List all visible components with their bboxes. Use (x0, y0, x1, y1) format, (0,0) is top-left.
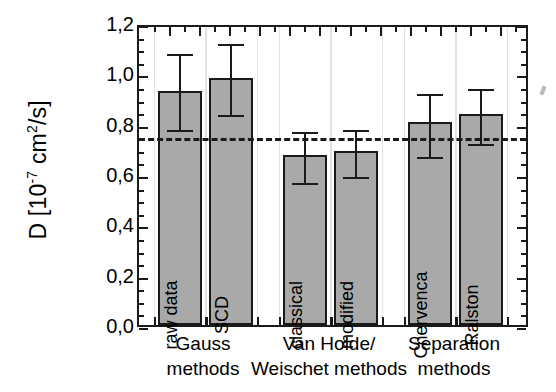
gridline (279, 27, 280, 325)
gridline (257, 27, 258, 325)
y-minor-tick (139, 315, 144, 317)
y-minor-tick-right (521, 265, 526, 267)
error-bar-stem (230, 45, 232, 117)
y-minor-tick-right (521, 215, 526, 217)
gridline (205, 27, 206, 325)
x-top-tick (319, 27, 321, 36)
y-tick-label: 0,4 (72, 215, 134, 235)
error-bar-cap-lower (292, 183, 318, 185)
y-major-tick-right (517, 278, 526, 280)
y-major-tick-right (517, 127, 526, 129)
y-axis-title-prefix: D [10 (25, 184, 51, 240)
gridline (154, 27, 155, 325)
y-major-tick-right (517, 177, 526, 179)
y-minor-tick-right (521, 315, 526, 317)
x-top-tick (410, 27, 412, 36)
x-top-tick (169, 27, 171, 36)
gridline (382, 27, 383, 325)
x-axis-category-labels: Gauss methodsVan Holde/ Weischet methods… (137, 331, 528, 391)
x-bottom-tick (455, 317, 457, 325)
x-bottom-tick (279, 317, 281, 325)
y-minor-tick-right (521, 202, 526, 204)
y-major-tick (139, 76, 148, 78)
x-bottom-tick (330, 317, 332, 325)
x-top-tick (365, 27, 367, 32)
x-top-tick (425, 27, 427, 32)
x-top-tick (440, 27, 442, 36)
y-minor-tick-right (521, 89, 526, 91)
x-top-tick (515, 27, 517, 32)
y-minor-tick-right (521, 39, 526, 41)
y-minor-tick (139, 240, 144, 242)
y-minor-tick-right (521, 102, 526, 104)
x-top-tick (274, 27, 276, 32)
y-major-tick (139, 278, 148, 280)
y-minor-tick (139, 152, 144, 154)
error-bar-cap-lower (468, 144, 494, 146)
x-top-tick (289, 27, 291, 36)
x-bottom-tick (154, 317, 156, 325)
y-axis-title-mid: cm (25, 133, 51, 171)
y-major-tick (139, 177, 148, 179)
y-tick-label: 0,6 (72, 165, 134, 185)
x-top-tick (214, 27, 216, 32)
y-major-tick-right (517, 328, 526, 330)
error-bar-stem (429, 95, 431, 158)
y-major-tick (139, 227, 148, 229)
error-bar-cap-lower (417, 157, 443, 159)
y-minor-tick (139, 215, 144, 217)
error-bar-stem (480, 90, 482, 145)
gridline (455, 27, 456, 325)
y-minor-tick (139, 253, 144, 255)
x-top-tick (154, 27, 156, 32)
gridline (206, 27, 207, 325)
y-minor-tick-right (521, 240, 526, 242)
plot-area: raw dataSCDclassicalmodifiedChervencaRal… (137, 25, 528, 327)
x-bottom-tick (404, 317, 406, 325)
y-major-tick-right (517, 76, 526, 78)
x-top-tick (304, 27, 306, 32)
gridline (331, 27, 332, 325)
gridline (404, 27, 405, 325)
scan-artifact-speck (539, 86, 546, 96)
y-tick-label: 1,2 (72, 14, 134, 34)
gridline (507, 27, 508, 325)
x-top-tick (380, 27, 382, 36)
diffusion-coefficient-bar-chart: D [10-7 cm2/s] 0,00,20,40,60,81,01,2 raw… (0, 0, 556, 392)
y-minor-tick-right (521, 290, 526, 292)
category-group-label: Separation methods (354, 331, 554, 381)
error-bar-cap-lower (218, 115, 244, 117)
error-bar-cap-upper (468, 89, 494, 91)
gridline (330, 27, 331, 325)
y-axis-title-tail: /s] (25, 100, 51, 125)
error-bar-cap-upper (167, 54, 193, 56)
y-major-tick (139, 127, 148, 129)
y-axis-title-exponent-2: 2 (24, 125, 40, 133)
y-tick-label: 0,2 (72, 266, 134, 286)
x-top-tick (395, 27, 397, 32)
x-bottom-tick (382, 317, 384, 325)
y-minor-tick-right (521, 303, 526, 305)
y-tick-label: 0,8 (72, 115, 134, 135)
x-bottom-tick (205, 317, 207, 325)
x-top-tick (350, 27, 352, 36)
error-bar-cap-upper (292, 132, 318, 134)
y-major-tick (139, 328, 148, 330)
x-top-tick (244, 27, 246, 32)
x-top-tick (335, 27, 337, 32)
y-minor-tick (139, 102, 144, 104)
y-minor-tick-right (521, 114, 526, 116)
y-minor-tick-right (521, 190, 526, 192)
y-axis-title: D [10-7 cm2/s] (24, 40, 52, 300)
bar-label: SCD (213, 296, 231, 334)
y-minor-tick (139, 164, 144, 166)
y-major-tick-right (517, 227, 526, 229)
y-minor-tick (139, 51, 144, 53)
y-minor-tick (139, 265, 144, 267)
x-bottom-tick (507, 317, 509, 325)
y-tick-label: 1,0 (72, 64, 134, 84)
x-top-tick (184, 27, 186, 32)
y-major-tick (139, 26, 148, 28)
x-top-tick (199, 27, 201, 36)
y-minor-tick (139, 303, 144, 305)
